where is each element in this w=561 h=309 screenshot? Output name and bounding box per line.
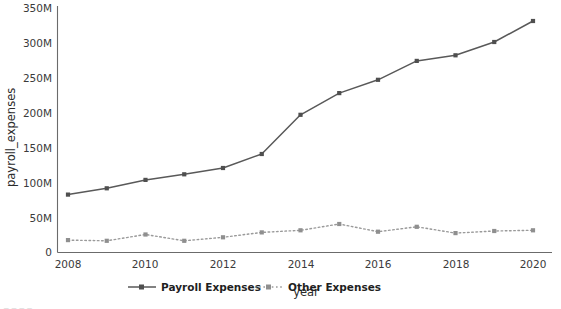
data-point-marker[interactable] xyxy=(298,113,302,117)
data-point-marker[interactable] xyxy=(260,230,264,234)
x-tick-label: 2010 xyxy=(132,258,159,270)
data-point-marker[interactable] xyxy=(337,91,341,95)
legend-entry-other-expenses[interactable]: Other Expenses xyxy=(255,281,381,293)
legend-label: Payroll Expenses xyxy=(161,281,261,293)
data-point-marker[interactable] xyxy=(143,178,147,182)
data-point-marker[interactable] xyxy=(531,19,535,23)
x-tick-label: 2016 xyxy=(365,258,392,270)
data-point-marker[interactable] xyxy=(182,239,186,243)
y-tick-label: 250M xyxy=(23,72,52,84)
data-point-marker[interactable] xyxy=(453,53,457,57)
y-tick-label: 50M xyxy=(30,212,52,224)
legend-marker-square-icon xyxy=(266,285,271,290)
series-layer xyxy=(66,19,535,243)
legend-label: Other Expenses xyxy=(288,281,381,293)
data-point-marker[interactable] xyxy=(143,232,147,236)
data-point-marker[interactable] xyxy=(221,235,225,239)
clipped-footer-text: _ _ _ _ xyxy=(4,299,32,309)
y-axis-title: payroll_expenses xyxy=(4,88,18,187)
y-tick-label: 150M xyxy=(23,142,52,154)
legend-entry-payroll-expenses[interactable]: Payroll Expenses xyxy=(128,281,261,293)
x-tick-label: 2020 xyxy=(520,258,547,270)
data-point-marker[interactable] xyxy=(182,172,186,176)
y-tick-label: 200M xyxy=(23,107,52,119)
data-point-marker[interactable] xyxy=(376,230,380,234)
data-point-marker[interactable] xyxy=(376,78,380,82)
data-point-marker[interactable] xyxy=(66,193,70,197)
data-point-marker[interactable] xyxy=(453,231,457,235)
data-point-marker[interactable] xyxy=(105,186,109,190)
x-tick-label: 2012 xyxy=(210,258,237,270)
data-point-marker[interactable] xyxy=(105,239,109,243)
data-point-marker[interactable] xyxy=(66,238,70,242)
data-point-marker[interactable] xyxy=(492,40,496,44)
y-tick-label: 100M xyxy=(23,177,52,189)
data-point-marker[interactable] xyxy=(531,228,535,232)
data-point-marker[interactable] xyxy=(221,166,225,170)
data-point-marker[interactable] xyxy=(298,228,302,232)
x-tick-label: 2018 xyxy=(443,258,470,270)
y-tick-label: 0 xyxy=(45,246,52,258)
chart-legend: Payroll Expenses Other Expenses xyxy=(128,281,381,293)
x-tick-label: 2014 xyxy=(288,258,315,270)
y-tick-label: 350M xyxy=(23,2,52,14)
data-point-marker[interactable] xyxy=(415,225,419,229)
data-point-marker[interactable] xyxy=(492,229,496,233)
data-point-marker[interactable] xyxy=(415,59,419,63)
y-tick-label: 300M xyxy=(23,37,52,49)
legend-marker-square-icon xyxy=(139,285,144,290)
series-line-payroll-expenses xyxy=(68,21,533,195)
data-point-marker[interactable] xyxy=(260,152,264,156)
x-tick-label: 2008 xyxy=(55,258,82,270)
data-point-marker[interactable] xyxy=(337,222,341,226)
